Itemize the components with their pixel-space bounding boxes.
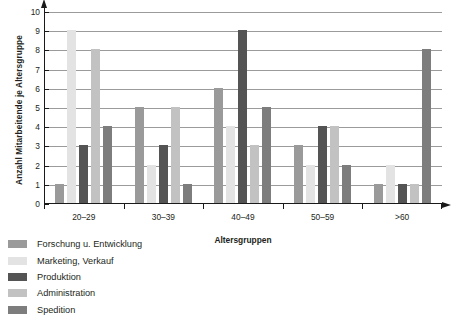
- bar: [342, 165, 351, 203]
- bar-group: [362, 12, 442, 203]
- legend-swatch: [8, 273, 27, 281]
- legend-label: Administration: [37, 288, 95, 298]
- y-tick-label: 9: [35, 27, 40, 35]
- y-axis-title: Anzahl Mitarbeitende je Altersgruppe: [14, 5, 24, 215]
- y-tick-label: 7: [35, 65, 40, 73]
- bar-groups: [44, 12, 442, 203]
- legend-label: Marketing, Verkauf: [37, 256, 114, 266]
- legend-swatch: [8, 306, 27, 314]
- x-tick-label: 30–39: [124, 212, 204, 222]
- bar: [306, 165, 315, 203]
- bar: [330, 126, 339, 203]
- bar-group: [124, 12, 204, 203]
- x-tick-label: 40–49: [203, 212, 283, 222]
- bar: [226, 126, 235, 203]
- x-tick-mark: [203, 204, 204, 209]
- x-tick-mark: [441, 204, 442, 209]
- legend-label: Spedition: [37, 305, 75, 315]
- bar: [374, 184, 383, 203]
- bar: [410, 184, 419, 203]
- x-tick-mark: [124, 204, 125, 209]
- bar-group: [283, 12, 363, 203]
- y-tick-label: 4: [35, 123, 40, 131]
- bar: [318, 126, 327, 203]
- x-tick-mark: [283, 204, 284, 209]
- legend-item: Administration: [8, 285, 142, 301]
- legend-swatch: [8, 240, 27, 248]
- bar: [67, 30, 76, 203]
- y-tick-label: 2: [35, 161, 40, 169]
- bar: [183, 184, 192, 203]
- bar: [262, 107, 271, 203]
- bar: [422, 49, 431, 203]
- x-tick-cell: 50–59: [283, 204, 363, 226]
- bar-group: [203, 12, 283, 203]
- bar: [294, 145, 303, 203]
- legend-item: Marketing, Verkauf: [8, 252, 142, 268]
- y-axis-arrow-icon: [41, 0, 47, 8]
- legend-label: Forschung u. Entwicklung: [37, 239, 142, 249]
- bar: [238, 30, 247, 203]
- x-tick-label: 50–59: [283, 212, 363, 222]
- y-tick-label: 1: [35, 181, 40, 189]
- bar: [103, 126, 112, 203]
- bar: [214, 88, 223, 203]
- y-tick-label: 10: [31, 8, 40, 16]
- legend-label: Produktion: [37, 272, 81, 282]
- legend-item: Forschung u. Entwicklung: [8, 236, 142, 252]
- x-tick-cell: 40–49: [203, 204, 283, 226]
- bar: [386, 165, 395, 203]
- x-tick-mark: [44, 204, 45, 209]
- x-axis-ticks: 20–2930–3940–4950–59>60: [44, 204, 442, 226]
- y-tick-label: 0: [35, 200, 40, 208]
- bar: [91, 49, 100, 203]
- y-tick-label: 6: [35, 85, 40, 93]
- y-tick-label: 3: [35, 142, 40, 150]
- x-tick-cell: >60: [362, 204, 442, 226]
- legend-item: Produktion: [8, 269, 142, 285]
- bar: [250, 145, 259, 203]
- x-tick-label: 20–29: [44, 212, 124, 222]
- bar: [55, 184, 64, 203]
- bar-group: [44, 12, 124, 203]
- x-axis-arrow-icon: [442, 202, 451, 208]
- x-tick-cell: 30–39: [124, 204, 204, 226]
- bar: [79, 145, 88, 203]
- legend-swatch: [8, 257, 27, 265]
- legend-item: Spedition: [8, 302, 142, 318]
- legend: Forschung u. EntwicklungMarketing, Verka…: [8, 236, 142, 318]
- y-tick-label: 8: [35, 46, 40, 54]
- bar: [159, 145, 168, 203]
- x-tick-label: >60: [362, 212, 442, 222]
- bar: [135, 107, 144, 203]
- bar: [171, 107, 180, 203]
- bar: [147, 165, 156, 203]
- y-tick-label: 5: [35, 104, 40, 112]
- bar: [398, 184, 407, 203]
- legend-swatch: [8, 289, 27, 297]
- x-tick-mark: [362, 204, 363, 209]
- plot-area: 012345678910 20–2930–3940–4950–59>60 Alt…: [44, 12, 442, 204]
- x-tick-cell: 20–29: [44, 204, 124, 226]
